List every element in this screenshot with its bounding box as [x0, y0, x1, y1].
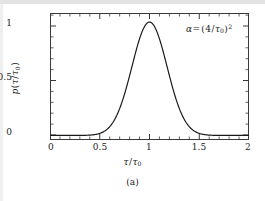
y-axis-label-slash: / [10, 75, 20, 79]
y-axis-label-tau: τ [10, 79, 20, 84]
annotation-equals: = [192, 24, 201, 34]
scan-edge-band-top [0, 0, 265, 4]
y-axis-label-tau0-subscript: 0 [13, 66, 20, 70]
xtick-label-1: 1 [146, 143, 152, 152]
xtick-label-1p5: 1.5 [192, 143, 207, 152]
y-axis-label-tau0: τ [10, 70, 20, 75]
figure-caption: (a) [0, 177, 265, 188]
xtick-label-2: 2 [245, 143, 251, 152]
x-axis-label-tau0-subscript: 0 [138, 160, 142, 167]
xtick-label-0: 0 [48, 143, 54, 152]
x-axis-label: τ/τ0 [0, 157, 265, 169]
y-axis-label-open-paren: ( [10, 84, 20, 89]
xtick-label-0p5: 0.5 [93, 143, 108, 152]
ytick-label-1: 1 [6, 19, 12, 28]
figure-panel: 0 0.5 1 0 0.5 1 1.5 2 p(τ/τ0) [0, 0, 265, 201]
scan-edge-band-left [0, 0, 3, 201]
ytick-label-0: 0 [6, 128, 12, 137]
y-axis-label: p(τ/τ0) [9, 50, 23, 106]
y-axis-label-close-paren: ) [10, 62, 20, 67]
annotation-exponent: 2 [228, 23, 232, 30]
y-axis-label-p: p [10, 89, 20, 95]
alpha-annotation: α=(4/τ0)2 [186, 21, 232, 36]
gaussian-curve [50, 22, 249, 135]
annotation-numerator: 4 [205, 24, 211, 34]
x-axis-label-tau: τ [124, 157, 129, 167]
